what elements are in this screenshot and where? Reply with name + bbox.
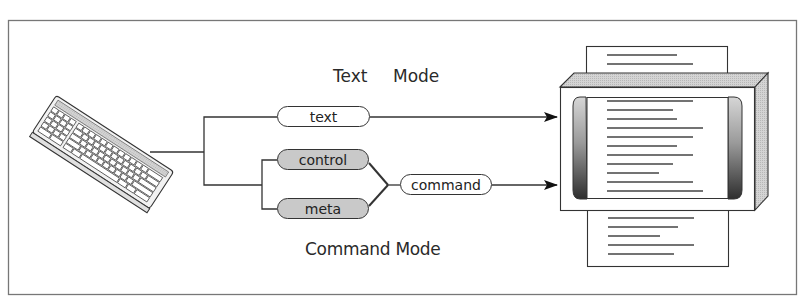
command-mode-label: Command Mode [305,239,441,259]
keyboard-icon [30,95,174,212]
command-node: command [400,174,492,195]
text-mode-label-mode: Mode [393,66,439,86]
text-node: text [277,106,370,127]
monitor-with-scrolling-pages-icon [560,47,768,267]
text-mode-label-text: Text [333,66,367,86]
meta-node: meta [277,198,369,219]
control-node: control [277,149,369,170]
editor-mode-diagram: Text Mode Command Mode text control meta… [0,0,805,307]
